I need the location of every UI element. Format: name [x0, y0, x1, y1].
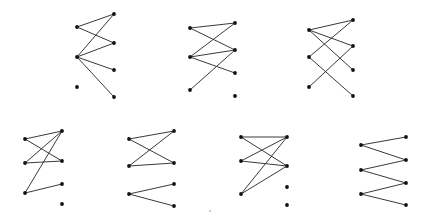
right-vertex	[60, 129, 64, 133]
left-vertex	[75, 25, 79, 29]
graph-edge	[25, 131, 62, 193]
graph-edge	[129, 131, 174, 139]
left-vertex	[127, 137, 131, 141]
left-vertex	[188, 55, 192, 59]
right-vertex	[351, 44, 355, 48]
graph-edge	[309, 20, 353, 57]
right-vertex	[404, 158, 408, 162]
left-vertex	[75, 85, 79, 89]
right-vertex	[404, 135, 408, 139]
graph-edge	[129, 139, 174, 163]
left-vertex	[239, 135, 243, 139]
left-vertex	[127, 164, 131, 168]
left-vertex	[307, 85, 311, 89]
left-vertex	[75, 55, 79, 59]
left-vertex	[239, 159, 243, 163]
right-vertex	[285, 185, 289, 189]
graph-edge	[309, 30, 353, 70]
right-vertex	[351, 18, 355, 22]
bipartite-graph-g7	[359, 135, 408, 207]
left-vertex	[188, 88, 192, 92]
bipartite-graph-g6	[239, 135, 289, 207]
bipartite-graph-g3	[307, 18, 355, 98]
right-vertex	[351, 68, 355, 72]
graph-edge	[129, 163, 174, 166]
right-vertex	[233, 48, 237, 52]
left-vertex	[23, 161, 27, 165]
right-vertex	[60, 159, 64, 163]
graph-edge	[190, 28, 235, 50]
bipartite-graph-g2	[188, 21, 237, 98]
graph-edge	[190, 23, 235, 57]
graph-edge	[129, 194, 174, 206]
left-vertex	[127, 192, 131, 196]
right-vertex	[233, 21, 237, 25]
right-vertex	[172, 161, 176, 165]
right-vertex	[285, 135, 289, 139]
left-vertex	[307, 28, 311, 32]
right-vertex	[404, 203, 408, 207]
left-vertex	[359, 192, 363, 196]
bipartite-graphs-figure	[0, 0, 429, 224]
graph-edge	[309, 46, 353, 87]
graph-edge	[361, 137, 406, 145]
right-vertex	[404, 181, 408, 185]
right-vertex	[172, 129, 176, 133]
graph-edge	[361, 145, 406, 160]
right-vertex	[285, 164, 289, 168]
bipartite-graph-g4	[23, 129, 64, 206]
graph-edge	[241, 137, 287, 161]
graph-edge	[129, 131, 174, 166]
graph-edge	[361, 183, 406, 194]
graph-edge	[129, 184, 174, 194]
left-vertex	[188, 26, 192, 30]
right-vertex	[172, 182, 176, 186]
right-vertex	[112, 95, 116, 99]
left-vertex	[23, 191, 27, 195]
bipartite-graph-g5	[127, 129, 176, 208]
right-vertex	[112, 68, 116, 72]
left-vertex	[23, 137, 27, 141]
left-vertex	[307, 55, 311, 59]
graph-edge	[241, 166, 287, 194]
stray-dot	[209, 210, 211, 212]
right-vertex	[351, 94, 355, 98]
graph-edge	[190, 23, 235, 28]
right-vertex	[60, 202, 64, 206]
graph-edge	[361, 170, 406, 183]
graph-edge	[25, 131, 62, 139]
right-vertex	[112, 41, 116, 45]
graph-edge	[309, 57, 353, 96]
graph-edge	[361, 160, 406, 170]
left-vertex	[359, 143, 363, 147]
left-vertex	[359, 168, 363, 172]
bipartite-graph-g1	[75, 12, 116, 99]
right-vertex	[112, 12, 116, 16]
right-vertex	[285, 203, 289, 207]
graph-edge	[25, 184, 62, 193]
left-vertex	[239, 192, 243, 196]
right-vertex	[233, 94, 237, 98]
graph-edge	[361, 194, 406, 205]
right-vertex	[60, 182, 64, 186]
right-vertex	[172, 204, 176, 208]
right-vertex	[233, 71, 237, 75]
